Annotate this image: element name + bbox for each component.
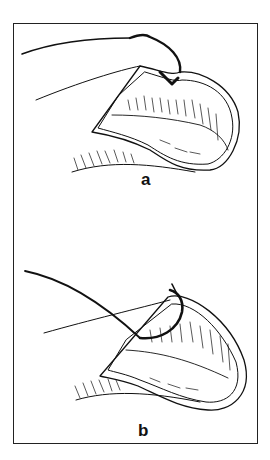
panel-label-b: b — [138, 421, 148, 441]
illustration — [0, 0, 270, 460]
panel-a-drawing — [22, 35, 239, 172]
panel-b-drawing — [25, 271, 246, 410]
panel-label-a: a — [141, 170, 150, 190]
